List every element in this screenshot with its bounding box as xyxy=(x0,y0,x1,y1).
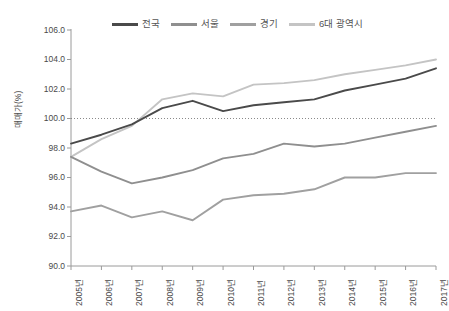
series-line-전국 xyxy=(71,68,436,143)
series-line-6대 광역시 xyxy=(71,60,436,157)
series-line-서울 xyxy=(71,126,436,184)
